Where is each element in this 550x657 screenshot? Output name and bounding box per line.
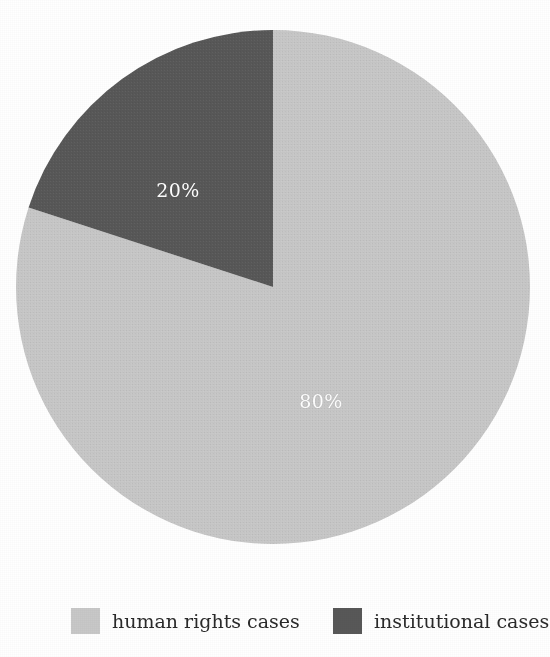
pie-chart-figure: 20% 80% human rights cases institutional… (0, 0, 550, 657)
legend-item-institutional-cases[interactable]: institutional cases (333, 601, 549, 641)
legend-label-human-rights-cases: human rights cases (112, 612, 300, 631)
legend-item-human-rights-cases[interactable]: human rights cases (71, 601, 300, 641)
pie-chart-plot-area: 20% 80% (0, 0, 550, 580)
legend-swatch-institutional-icon (333, 608, 362, 634)
pie-chart-svg (0, 0, 550, 580)
chart-legend: human rights cases institutional cases (0, 601, 550, 649)
legend-label-institutional-cases: institutional cases (374, 612, 549, 631)
pie-texture-overlay (16, 30, 530, 544)
legend-swatch-human-rights-icon (71, 608, 100, 634)
